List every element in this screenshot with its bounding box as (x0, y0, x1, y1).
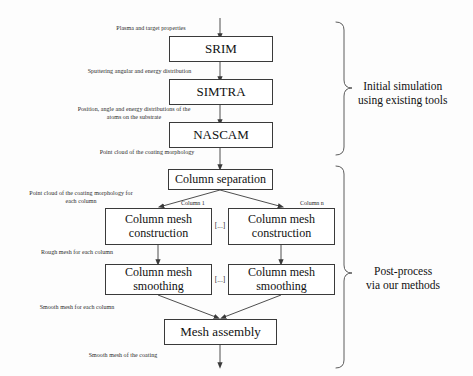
edge-label-construction-to-smoothing: Rough mesh for each column (22, 249, 132, 257)
line-2: via our methods (366, 279, 440, 291)
node-nascam[interactable]: NASCAM (169, 122, 273, 148)
line-2: atoms on the substrate (107, 114, 162, 120)
branch-label-column-last: Column n (300, 200, 324, 206)
edge-label-assembly-output: Smooth mesh of the coating (68, 352, 178, 360)
node-column-mesh-smoothing-first-label: Column mesh smoothing (125, 266, 192, 293)
node-column-separation[interactable]: Column separation (168, 169, 273, 190)
node-nascam-label: NASCAM (193, 128, 249, 143)
node-mesh-assembly-label: Mesh assembly (180, 325, 261, 340)
line-1: Point cloud of the coating morphology fo… (29, 190, 132, 196)
node-column-separation-label: Column separation (175, 173, 266, 186)
node-column-mesh-construction-first[interactable]: Column mesh construction (105, 208, 212, 245)
edge-label-simtra-to-nascam: Position, angle and energy distributions… (52, 106, 216, 121)
line-1: Column mesh (248, 212, 315, 226)
line-1: Position, angle and energy distributions… (78, 106, 191, 112)
node-column-mesh-construction-last-label: Column mesh construction (248, 213, 315, 240)
line-1: Column mesh (125, 265, 192, 279)
node-column-mesh-construction-last[interactable]: Column mesh construction (228, 208, 335, 245)
node-column-mesh-smoothing-last[interactable]: Column mesh smoothing (228, 264, 335, 295)
edge-label-smoothing-to-assembly: Smooth mesh for each column (22, 304, 132, 312)
node-srim-label: SRIM (205, 42, 237, 57)
edge-label-input-to-srim: Plasma and target properties (86, 25, 216, 33)
node-column-mesh-construction-first-label: Column mesh construction (125, 213, 192, 240)
line-1: Column mesh (125, 212, 192, 226)
node-mesh-assembly[interactable]: Mesh assembly (164, 319, 277, 345)
group-label-initial-simulation: Initial simulation using existing tools (358, 80, 447, 108)
node-simtra-label: SIMTRA (196, 85, 245, 100)
line-2: each column (65, 198, 96, 204)
line-2: construction (252, 226, 311, 240)
node-srim[interactable]: SRIM (169, 36, 273, 62)
branch-label-column-first: Column 1 (181, 200, 205, 206)
edge-label-srim-to-simtra: Sputtering angular and energy distributi… (63, 68, 216, 76)
ellipsis-smoothing-row: [...] (210, 275, 230, 284)
line-2: using existing tools (358, 94, 447, 106)
node-column-mesh-smoothing-last-label: Column mesh smoothing (248, 266, 315, 293)
line-2: smoothing (133, 279, 184, 293)
edge-label-separation-to-construction: Point cloud of the coating morphology fo… (14, 190, 148, 205)
line-2: smoothing (256, 279, 307, 293)
edge-label-nascam-to-separation: Point cloud of the coating morphology (78, 149, 216, 157)
line-1: Post-process (374, 265, 432, 277)
ellipsis-construction-row: [...] (210, 221, 230, 230)
flowchart-diagram: SRIM SIMTRA NASCAM Column separation Col… (0, 0, 473, 376)
line-2: construction (129, 226, 188, 240)
node-column-mesh-smoothing-first[interactable]: Column mesh smoothing (105, 264, 212, 295)
group-label-post-process: Post-process via our methods (366, 265, 440, 293)
line-1: Initial simulation (363, 80, 442, 92)
line-1: Column mesh (248, 265, 315, 279)
node-simtra[interactable]: SIMTRA (169, 79, 273, 105)
